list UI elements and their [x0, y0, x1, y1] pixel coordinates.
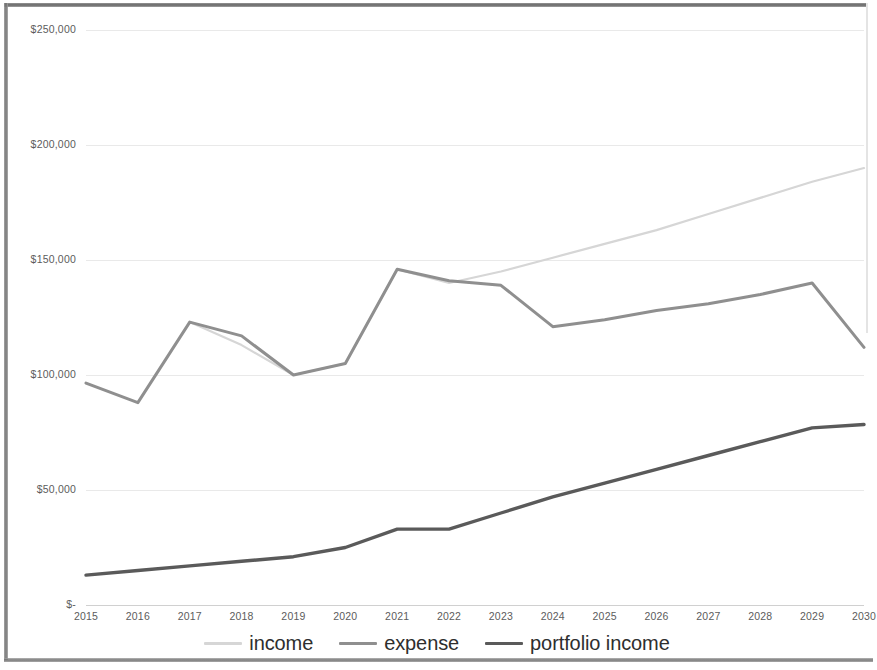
page-edge-right: [866, 3, 868, 333]
series-line-income: [190, 168, 864, 375]
legend-swatch-icon: [339, 642, 377, 645]
chart-legend: incomeexpenseportfolio income: [8, 632, 866, 655]
page-edge-bottom: [4, 658, 873, 662]
chart-series-layer: [8, 8, 866, 656]
series-line-portfolio-income: [86, 424, 864, 575]
legend-label: portfolio income: [530, 632, 670, 655]
legend-item-income[interactable]: income: [204, 632, 313, 655]
chart-frame: $-$50,000$100,000$150,000$200,000$250,00…: [0, 0, 877, 670]
legend-item-portfolio-income[interactable]: portfolio income: [485, 632, 670, 655]
series-line-expense: [86, 269, 864, 402]
legend-label: income: [249, 632, 313, 655]
legend-swatch-icon: [485, 642, 523, 645]
page-edge-top: [4, 3, 866, 7]
legend-swatch-icon: [204, 642, 242, 645]
legend-label: expense: [384, 632, 459, 655]
line-chart-plot-area: $-$50,000$100,000$150,000$200,000$250,00…: [8, 8, 866, 656]
legend-item-expense[interactable]: expense: [339, 632, 459, 655]
